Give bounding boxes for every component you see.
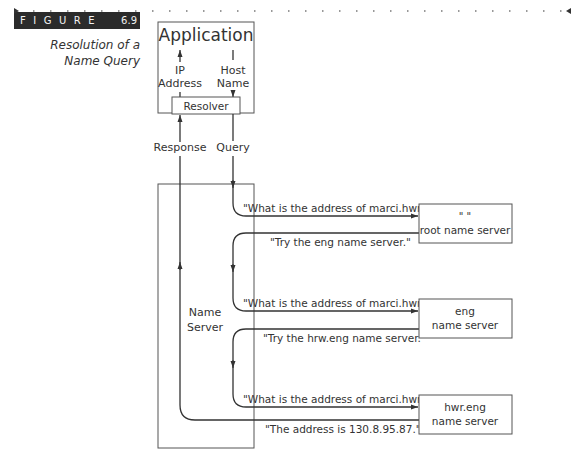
ip-label: IP — [175, 64, 185, 77]
hwr-server-label-1: hwr.eng — [444, 401, 486, 413]
name-query-diagram: Application IP Address Host Name Resolve… — [0, 0, 577, 470]
response-path — [180, 156, 419, 420]
name-label: Name — [217, 77, 250, 90]
hwr-server-label-2: name server — [432, 415, 499, 427]
resolver-label: Resolver — [183, 100, 229, 112]
name-server-label-1: Name — [189, 306, 222, 319]
reply-message-1: "Try the eng name server." — [270, 236, 411, 248]
top-dotted-rule — [14, 8, 571, 14]
query-label: Query — [216, 141, 250, 154]
reply-message-3: "The address is 130.8.95.87." — [265, 423, 421, 435]
name-server-label-2: Server — [187, 321, 224, 334]
address-label: Address — [158, 77, 202, 90]
reply-message-2: "Try the hrw.eng name server." — [263, 332, 426, 344]
root-server-label-1: " " — [459, 211, 471, 222]
application-label: Application — [159, 25, 254, 45]
response-label: Response — [154, 141, 207, 154]
eng-server-label-2: name server — [432, 319, 499, 331]
eng-server-label-1: eng — [455, 305, 475, 317]
root-server-label-2: root name server — [420, 224, 511, 236]
host-label: Host — [220, 64, 246, 77]
